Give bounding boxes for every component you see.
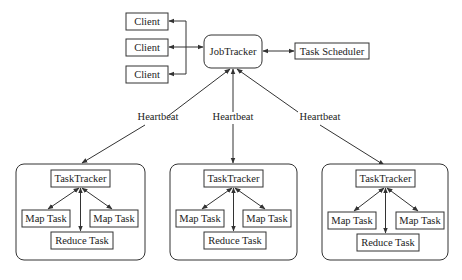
map-task-label: Map Task	[93, 213, 135, 224]
task-tracker-label: TaskTracker	[360, 173, 412, 184]
map-task-label: Map Task	[331, 215, 373, 226]
map-task-label: Map Task	[25, 213, 67, 224]
worker-node-1: TaskTracker Map Task Map Task Reduce Tas…	[16, 164, 145, 260]
client-label: Client	[134, 69, 160, 80]
mapreduce-architecture-diagram: Client Client Client JobTracker Task Sch…	[0, 0, 462, 280]
job-tracker-label: JobTracker	[210, 46, 257, 57]
reduce-task-label: Reduce Task	[208, 235, 262, 246]
worker-node-2: TaskTracker Map Task Map Task Reduce Tas…	[170, 164, 297, 260]
map-task-label: Map Task	[399, 215, 441, 226]
client-box-3: Client	[126, 66, 168, 83]
heartbeat-arrow-middle: Heartbeat	[213, 69, 254, 163]
heartbeat-label: Heartbeat	[213, 111, 254, 122]
reduce-task-label: Reduce Task	[361, 237, 415, 248]
heartbeat-label: Heartbeat	[300, 111, 341, 122]
map-task-label: Map Task	[179, 213, 221, 224]
task-scheduler-label: Task Scheduler	[300, 46, 365, 57]
client-connectors	[169, 21, 203, 74]
worker-node-3: TaskTracker Map Task Map Task Reduce Tas…	[322, 164, 448, 260]
task-scheduler-box: Task Scheduler	[295, 43, 369, 59]
client-box-2: Client	[126, 39, 168, 56]
map-task-label: Map Task	[246, 213, 288, 224]
task-tracker-label: TaskTracker	[208, 173, 260, 184]
client-label: Client	[134, 42, 160, 53]
client-box-1: Client	[126, 13, 168, 30]
reduce-task-label: Reduce Task	[55, 235, 109, 246]
heartbeat-label: Heartbeat	[138, 111, 179, 122]
task-tracker-label: TaskTracker	[55, 173, 107, 184]
client-label: Client	[134, 16, 160, 27]
heartbeat-arrow-right: Heartbeat	[237, 69, 384, 165]
job-tracker-box: JobTracker	[204, 35, 262, 68]
